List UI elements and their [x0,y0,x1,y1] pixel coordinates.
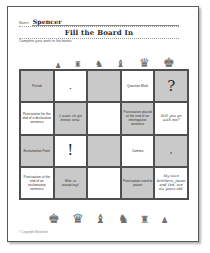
grid-cell[interactable]: ! [54,135,88,167]
grid-cell-text: Punctuation for the end of a declarative… [22,112,52,124]
grid-cell[interactable]: ? [154,70,188,102]
instruction-text: Complete your work in the boxes. [19,39,73,43]
grid-cell[interactable]: Will you go with me? [154,102,188,134]
chess-pieces-top-row: ♟♜♞♝♛♚ [55,47,175,69]
grid-cell[interactable] [87,70,121,102]
chess-knight-icon: ♞ [118,213,129,225]
grid-cell[interactable]: Period [20,70,54,102]
grid-cell[interactable]: Punctuation at the end of an exclamatory… [20,167,54,199]
name-input[interactable]: Spencer [32,18,179,26]
grid-cell-text: ! [67,143,73,158]
page-title: Fill the Board In [65,28,134,37]
grid-cell-text: My twin brothers, Jason and Ted, are six… [156,174,186,191]
chess-queen-icon: ♛ [139,57,150,69]
grid-cell-text: Punctuation used to pause [123,179,153,187]
grid-cell-text: I want to go home now. [56,114,86,123]
grid-cell-text: Comma [132,149,143,153]
title-band: Fill the Board In [19,26,179,39]
name-row: Name: Spencer [19,17,179,26]
grid-cell[interactable]: Punctuation for the end of a declarative… [20,102,54,134]
grid-cell[interactable]: Punctuation placed at the end of an inte… [121,102,155,134]
grid-cell[interactable] [87,135,121,167]
grid-cell-text: ? [167,79,175,94]
chess-pawn-icon: ♟ [161,217,168,225]
chess-queen-icon: ♛ [72,212,84,225]
chess-knight-icon: ♞ [95,60,103,69]
chess-pawn-icon: ♟ [55,62,61,69]
grid-cell-text: Will you go with me? [156,114,186,123]
grid-cell-text: Exclamation Point [24,149,50,153]
grid-cell[interactable]: . [54,70,88,102]
footer-copyright: © Copyright Worksheet [19,231,48,234]
chess-bishop-icon: ♝ [116,59,125,69]
worksheet-body: Name: Spencer Fill the Board In Complete… [8,7,198,241]
chess-king-icon: ♚ [163,56,175,69]
grid-cell[interactable] [87,102,121,134]
grid-cell-text: . [69,82,72,91]
grid-cell[interactable]: Comma [121,135,155,167]
grid-cell[interactable]: , [154,135,188,167]
chess-king-icon: ♚ [48,212,60,225]
grid-cell[interactable]: She is amazing! [54,167,88,199]
grid-cell[interactable] [87,167,121,199]
grid-cell-text: Period [32,84,42,88]
chess-rook-icon: ♜ [74,61,81,69]
grid-cell-text: She is amazing! [56,179,86,188]
grid-cell-text: Punctuation at the end of an exclamatory… [22,175,52,191]
grid-cell-text: Punctuation placed at the end of an inte… [123,110,153,126]
grid-cell[interactable]: Question Mark [121,70,155,102]
grid-cell[interactable]: Punctuation used to pause [121,167,155,199]
worksheet-page: Name: Spencer Fill the Board In Complete… [7,6,199,242]
punctuation-grid: Period.Question Mark?Punctuation for the… [19,69,189,200]
grid-cell[interactable]: Exclamation Point [20,135,54,167]
chess-rook-icon: ♜ [140,215,149,225]
grid-cell-text: , [170,146,173,155]
chess-bishop-icon: ♝ [95,213,106,225]
grid-cell-text: Question Mark [127,84,148,88]
grid-cell[interactable]: My twin brothers, Jason and Ted, are six… [154,167,188,199]
grid-cell[interactable]: I want to go home now. [54,102,88,134]
chess-pieces-bottom-row: ♚♛♝♞♜♟ [48,201,168,225]
